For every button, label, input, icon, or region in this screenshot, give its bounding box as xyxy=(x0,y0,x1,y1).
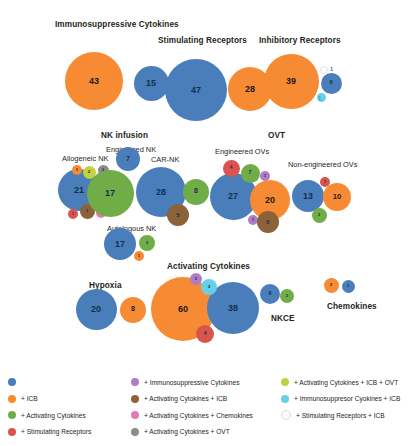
legend-label: + Activating Cytokines + ICB xyxy=(144,395,227,402)
bubble: 6 xyxy=(260,284,280,304)
legend-item[interactable]: + Activating Cytokines xyxy=(8,407,91,424)
bubble: 2 xyxy=(280,289,294,303)
bubble: 8 xyxy=(120,297,146,323)
bubble-chart: Immunosuppressive CytokinesStimulating R… xyxy=(0,0,420,370)
legend-swatch-icon xyxy=(131,428,139,436)
bubble: 15 xyxy=(134,66,169,101)
bubble: 3 xyxy=(312,208,327,223)
group-label: OVT xyxy=(268,131,285,140)
legend-label: + Activating Cytokines + OVT xyxy=(144,428,230,435)
legend-item[interactable]: + Activating Cytokines + ICB xyxy=(131,391,253,408)
legend-label: + ICB xyxy=(21,395,38,402)
legend-swatch-icon xyxy=(131,378,139,386)
bubble: 1 xyxy=(68,209,78,219)
bubble: 4 xyxy=(223,160,240,177)
group-label: Immunosuppressive Cytokines xyxy=(55,20,179,29)
bubble: 3 xyxy=(139,235,155,251)
legend-swatch-icon xyxy=(281,378,289,386)
bubble: 7 xyxy=(241,164,260,183)
legend-label: + Stimulating Receptors + ICB xyxy=(296,412,385,419)
legend-item[interactable]: + Activating Cytokines + Chemokines xyxy=(131,407,253,424)
bubble: 3 xyxy=(324,278,339,293)
legend-swatch-icon xyxy=(8,411,16,419)
bubble: 20 xyxy=(76,289,117,330)
legend-item[interactable]: + ICB xyxy=(8,391,91,408)
bubble: 1 xyxy=(72,165,82,175)
bubble: 3 xyxy=(201,279,217,295)
legend-label: + Activating Cytokines + ICB + OVT xyxy=(294,379,398,386)
bubble: 17 xyxy=(87,170,134,217)
bubble: 39 xyxy=(264,54,319,109)
subgroup-label: Engineered OVs xyxy=(215,147,269,156)
legend-label: + Stimulating Receptors xyxy=(21,428,91,435)
bubble: 5 xyxy=(167,204,189,226)
legend-label: + Activating Cytokines xyxy=(21,412,86,419)
legend-column-1: + ICB+ Activating Cytokines+ Stimulating… xyxy=(8,374,91,440)
legend-item[interactable]: + Activating Cytokines + ICB + OVT xyxy=(281,374,400,391)
group-label: NKCE xyxy=(271,314,295,323)
chart-legend: + ICB+ Activating Cytokines+ Stimulating… xyxy=(0,374,420,446)
legend-column-2: + Immunosuppressive Cytokines+ Activatin… xyxy=(131,374,253,440)
bubble: 47 xyxy=(165,59,227,121)
legend-swatch-icon xyxy=(131,395,139,403)
bubble: 2 xyxy=(190,273,202,285)
bubble-value-label: 1 xyxy=(318,95,321,101)
bubble xyxy=(320,66,328,74)
bubble-value-label: 1 xyxy=(330,66,333,72)
group-label: Activating Cytokines xyxy=(167,262,250,271)
legend-item[interactable]: + Activating Cytokines + OVT xyxy=(131,424,253,441)
bubble: 1 xyxy=(320,177,330,187)
group-label: Inhibitory Receptors xyxy=(259,36,341,45)
bubble: 5 xyxy=(257,211,279,233)
bubble: 10 xyxy=(323,183,351,211)
legend-label: + Immunosuppresor Cyokines + ICB xyxy=(294,395,400,402)
group-label: Chemokines xyxy=(327,302,377,311)
group-label: Stimulating Receptors xyxy=(158,36,247,45)
legend-label: + Activating Cytokines + Chemokines xyxy=(144,412,253,419)
subgroup-label: Non-engineered OVs xyxy=(288,160,357,169)
bubble: 1 xyxy=(134,251,144,261)
bubble: 7 xyxy=(116,147,140,171)
legend-item[interactable]: + Stimulating Receptors xyxy=(8,424,91,441)
bubble: 17 xyxy=(104,228,136,260)
bubble: 2 xyxy=(342,280,355,293)
subgroup-label: CAR-NK xyxy=(151,155,179,164)
legend-item[interactable]: + Immunosuppressive Cytokines xyxy=(131,374,253,391)
bubble: 6 xyxy=(321,73,342,94)
bubble: 43 xyxy=(65,52,123,110)
legend-swatch-icon xyxy=(8,428,16,436)
legend-column-3: + Activating Cytokines + ICB + OVT+ Immu… xyxy=(281,374,400,424)
legend-swatch-icon xyxy=(281,395,289,403)
legend-swatch-icon xyxy=(8,395,16,403)
bubble: 8 xyxy=(183,179,209,205)
bubble: 4 xyxy=(196,325,214,343)
legend-swatch-icon xyxy=(281,410,291,420)
legend-item[interactable]: + Immunosuppresor Cyokines + ICB xyxy=(281,391,400,408)
legend-swatch-icon xyxy=(8,378,16,386)
subgroup-label: Allogeneic NK xyxy=(62,154,108,163)
group-label: NK infusion xyxy=(101,131,148,140)
legend-swatch-icon xyxy=(131,411,139,419)
legend-item[interactable]: + Stimulating Receptors + ICB xyxy=(281,407,400,424)
legend-item[interactable] xyxy=(8,374,91,391)
legend-label: + Immunosuppressive Cytokines xyxy=(144,379,239,386)
